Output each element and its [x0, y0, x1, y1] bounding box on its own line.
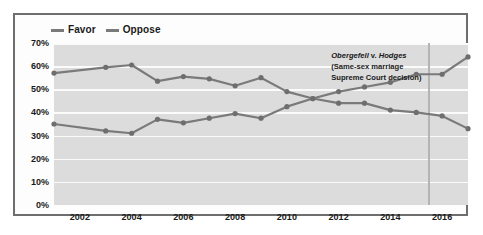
chart-legend: Favor Oppose — [51, 23, 161, 37]
y-tick-label: 30% — [31, 131, 49, 141]
data-point-oppose — [414, 110, 419, 115]
data-point-oppose — [103, 65, 108, 70]
x-tick-label: 2006 — [173, 212, 193, 222]
event-annotation: Obergefell v. Hodges (Same-sex marriage … — [331, 51, 421, 83]
x-tick-label: 2014 — [380, 212, 400, 222]
data-point-favor — [233, 111, 238, 116]
legend-item-favor[interactable]: Favor — [51, 25, 96, 35]
data-point-favor — [284, 104, 289, 109]
data-point-oppose — [207, 76, 212, 81]
data-point-oppose — [155, 79, 160, 84]
data-point-oppose — [51, 70, 56, 75]
data-point-oppose — [465, 126, 470, 131]
x-tick-label: 2010 — [277, 212, 297, 222]
chart-figure: Favor Oppose 0%10%20%30%40%50%60%70% 200… — [13, 13, 468, 216]
data-point-favor — [181, 120, 186, 125]
data-point-favor — [129, 131, 134, 136]
data-point-oppose — [284, 89, 289, 94]
annotation-case-versus: v. — [369, 51, 379, 60]
annotation-case-defendant: Hodges — [379, 51, 407, 60]
data-point-oppose — [388, 108, 393, 113]
annotation-line-3: Supreme Court decision) — [331, 73, 421, 84]
y-tick-label: 20% — [31, 154, 49, 164]
data-point-favor — [51, 121, 56, 126]
x-tick-label: 2002 — [70, 212, 90, 222]
y-tick-label: 40% — [31, 107, 49, 117]
data-point-favor — [103, 128, 108, 133]
data-point-oppose — [129, 62, 134, 67]
y-tick-label: 50% — [31, 84, 49, 94]
y-tick-label: 70% — [31, 38, 49, 48]
x-tick-label: 2016 — [432, 212, 452, 222]
x-tick-label: 2004 — [122, 212, 142, 222]
legend-label-oppose: Oppose — [123, 25, 161, 35]
legend-line-swatch-oppose — [106, 29, 119, 32]
x-tick-label: 2008 — [225, 212, 245, 222]
x-tick-label: 2012 — [329, 212, 349, 222]
annotation-line-1: Obergefell v. Hodges — [331, 51, 421, 62]
data-point-favor — [336, 89, 341, 94]
data-point-favor — [207, 116, 212, 121]
y-tick-label: 10% — [31, 177, 49, 187]
legend-label-favor: Favor — [68, 25, 96, 35]
data-point-favor — [362, 84, 367, 89]
data-point-oppose — [181, 74, 186, 79]
legend-line-swatch-favor — [51, 29, 64, 32]
data-point-oppose — [362, 101, 367, 106]
data-point-favor — [258, 116, 263, 121]
y-tick-label: 0% — [36, 200, 49, 210]
y-tick-label: 60% — [31, 61, 49, 71]
data-point-oppose — [258, 75, 263, 80]
data-point-oppose — [336, 101, 341, 106]
data-point-favor — [440, 72, 445, 77]
data-point-oppose — [233, 83, 238, 88]
data-point-favor — [155, 117, 160, 122]
data-point-oppose — [310, 96, 315, 101]
legend-item-oppose[interactable]: Oppose — [106, 25, 161, 35]
data-point-favor — [465, 54, 470, 59]
annotation-line-2: (Same-sex marriage — [331, 62, 421, 73]
data-point-oppose — [440, 113, 445, 118]
annotation-case-plaintiff: Obergefell — [331, 51, 369, 60]
